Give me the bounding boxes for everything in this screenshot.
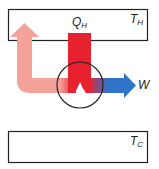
cold-reservoir-box bbox=[9, 132, 148, 163]
heat-in-label: QH bbox=[72, 16, 87, 30]
work-label: W bbox=[138, 79, 149, 91]
hot-reservoir-label: TH bbox=[130, 13, 143, 27]
cold-reservoir-label: TC bbox=[130, 135, 143, 149]
work-arrow bbox=[86, 73, 136, 98]
